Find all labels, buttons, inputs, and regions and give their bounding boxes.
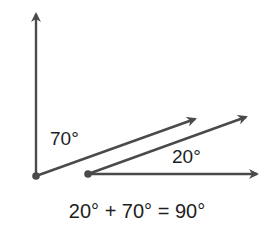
angle-label-20: 20° [172,147,201,166]
angle-label-70: 70° [50,129,79,148]
ray-20-degree-upper [88,117,246,174]
sum-equation: 20° + 70° = 90° [0,200,274,223]
vertex-dot-a [32,172,40,180]
vertex-dot-b [84,170,92,178]
